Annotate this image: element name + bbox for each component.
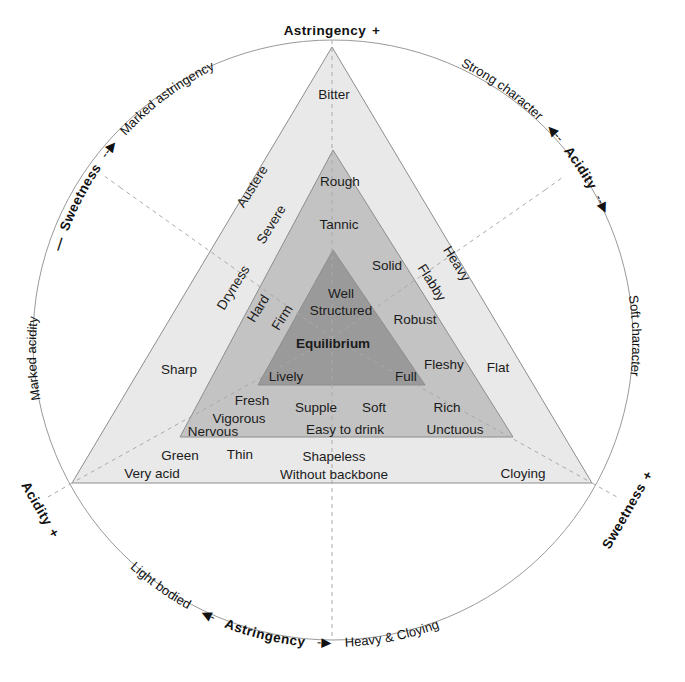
term-nervous: Nervous: [188, 424, 239, 439]
arc-label-top-left: — Sweetness --▶ Marked astringency: [49, 58, 216, 252]
term-tannic: Tannic: [319, 217, 358, 232]
term-sharp: Sharp: [161, 362, 197, 377]
term-structured: Structured: [310, 303, 372, 318]
term-supple: Supple: [295, 400, 337, 415]
term-shapeless: Shapeless: [302, 449, 365, 464]
term-bitter: Bitter: [318, 87, 350, 102]
term-solid: Solid: [372, 258, 402, 273]
term-green: Green: [161, 448, 199, 463]
term-lively: Lively: [269, 369, 304, 384]
diagram-canvas: Astringency+ Acidity+ Sweetness+ Marked …: [0, 0, 685, 682]
arc-label-top-right: Strong character ◀-- Acidity --▶: [459, 56, 613, 216]
wine-triangle-diagram: Astringency+ Acidity+ Sweetness+ Marked …: [0, 0, 685, 682]
term-cloying: Cloying: [500, 466, 545, 481]
term-very-acid: Very acid: [124, 466, 180, 481]
term-robust: Robust: [394, 312, 437, 327]
corner-axis-top: Astringency+: [284, 23, 381, 38]
term-full: Full: [395, 369, 417, 384]
corner-axis-bottom-left: Acidity+: [19, 479, 63, 540]
term-without-backbone: Without backbone: [280, 467, 388, 482]
term-well: Well: [328, 286, 354, 301]
term-equilibrium: Equilibrium: [296, 336, 370, 351]
arc-label-left: Marked acidity: [24, 315, 43, 401]
term-rich: Rich: [433, 400, 460, 415]
corner-axis-bottom-right: Sweetness+: [599, 468, 656, 551]
arc-label-bottom: Light bodied ◀- Astringency -▶ Heavy & C…: [128, 559, 442, 650]
arc-label-right: Soft character: [625, 294, 644, 378]
term-fresh: Fresh: [235, 393, 270, 408]
term-unctuous: Unctuous: [426, 422, 483, 437]
term-fleshy: Fleshy: [424, 357, 464, 372]
term-easy-to-drink: Easy to drink: [306, 422, 384, 437]
term-flat: Flat: [487, 360, 510, 375]
term-soft: Soft: [362, 400, 386, 415]
term-rough: Rough: [320, 174, 360, 189]
term-thin: Thin: [227, 447, 253, 462]
